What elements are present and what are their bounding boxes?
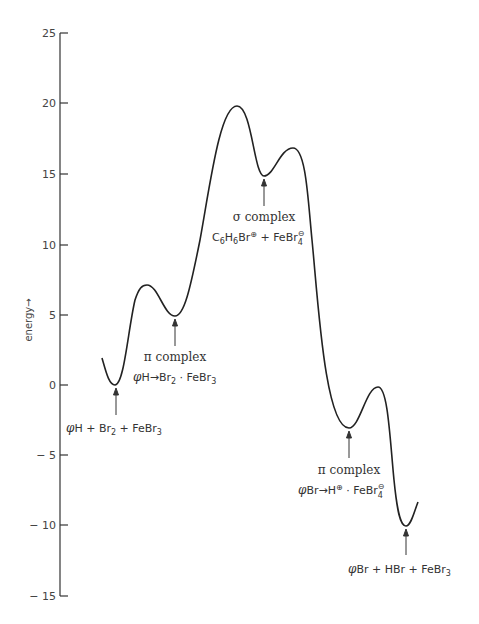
reactants-label: φH + Br2 + FeBr3 <box>66 421 162 437</box>
products-label: φBr + HBr + FeBr3 <box>348 562 451 578</box>
pi-complex-2-formula: φBr→H⊕ · FeBr4⊖ <box>298 482 385 500</box>
arrow-up-icon <box>173 319 178 326</box>
sigma-complex-title: σ complex <box>233 210 296 224</box>
pi-complex-2-title: π complex <box>318 463 381 477</box>
tick-label-5: 5 <box>49 309 56 322</box>
arrow-up-icon <box>262 179 267 186</box>
sigma-complex-formula: C6H6Br⊕ + FeBr4⊖ <box>212 229 305 247</box>
tick-label-15: 15 <box>42 168 56 181</box>
pi-complex-1-title: π complex <box>144 350 207 364</box>
y-ticks <box>60 33 68 596</box>
tick-label-10: 10 <box>42 239 56 252</box>
y-axis-label: energy→ <box>23 298 34 341</box>
tick-label-25: 25 <box>42 27 56 40</box>
tick-label-minus-5: − 5 <box>36 449 56 462</box>
tick-label-minus-15: − 15 <box>29 590 56 603</box>
tick-label-20: 20 <box>42 97 56 110</box>
arrow-up-icon <box>347 431 352 438</box>
arrow-up-icon <box>404 529 409 536</box>
tick-label-minus-10: − 10 <box>29 519 56 532</box>
arrow-up-icon <box>114 388 119 395</box>
pi-complex-1-formula: φH→Br2 · FeBr3 <box>133 370 216 386</box>
energy-diagram: 25 20 15 10 5 0 − 5 − 10 − 15 energy→ φH… <box>0 0 479 624</box>
tick-label-0: 0 <box>49 379 56 392</box>
